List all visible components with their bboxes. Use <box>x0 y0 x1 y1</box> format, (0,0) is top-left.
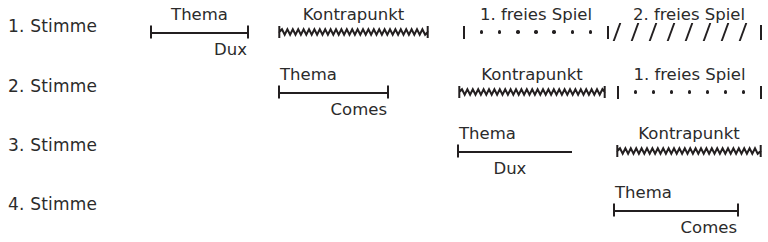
segment-kontrapunkt-voice3: Kontrapunkt <box>616 143 762 159</box>
slash <box>702 23 711 41</box>
segment-bottom-label: Dux <box>493 160 526 177</box>
dot <box>589 30 592 33</box>
fugue-voice-diagram: 1. Stimme Thema Dux Kontrapunkt 1. freie… <box>0 0 768 242</box>
bracket-tick-right <box>737 204 739 217</box>
segment-top-label: 1. freies Spiel <box>480 6 592 23</box>
segment-top-label: Thema <box>615 184 672 201</box>
segment-top-label: Thema <box>171 6 228 23</box>
dotted-end-bar-left <box>463 26 465 39</box>
dot <box>480 30 483 33</box>
segment-top-label: 2. freies Spiel <box>633 6 745 23</box>
slash <box>720 23 729 41</box>
bracket-tick-right <box>387 86 389 99</box>
dot <box>688 90 691 93</box>
bracket-tick-left <box>613 204 615 217</box>
bracket-rule <box>278 92 389 94</box>
segment-erstes-freies-spiel-voice1: 1. freies Spiel <box>463 24 609 40</box>
bracket-rule <box>457 151 572 153</box>
segment-bottom-label: Dux <box>214 41 247 58</box>
segment-kontrapunkt-voice2: Kontrapunkt <box>458 84 606 100</box>
slash <box>684 23 693 41</box>
wavy-line-icon <box>278 25 429 39</box>
slash-line-icon <box>616 23 762 41</box>
segment-kontrapunkt-voice1: Kontrapunkt <box>278 24 429 40</box>
dotted-end-bar-left <box>617 86 619 99</box>
dot <box>652 90 655 93</box>
slash <box>631 23 640 41</box>
wavy-line-icon <box>458 85 606 99</box>
dot <box>552 30 555 33</box>
segment-top-label: Kontrapunkt <box>481 66 582 83</box>
voice-label-1: 1. Stimme <box>8 16 97 36</box>
dot <box>516 30 519 33</box>
wavy-line-icon <box>616 144 762 158</box>
dot <box>670 90 673 93</box>
dot <box>498 30 501 33</box>
slash <box>649 23 658 41</box>
bracket-tick-left <box>457 145 459 158</box>
bracket-rule <box>150 32 249 34</box>
segment-top-label: Thema <box>459 125 516 142</box>
slash <box>667 23 676 41</box>
dotted-end-bar-right <box>607 26 609 39</box>
segment-thema-comes-voice4: Thema Comes <box>613 202 739 218</box>
segment-zweites-freies-spiel-voice1: 2. freies Spiel <box>616 24 762 40</box>
voice-label-3: 3. Stimme <box>8 135 97 155</box>
segment-bottom-label: Comes <box>681 219 737 236</box>
segment-top-label: 1. freies Spiel <box>633 66 745 83</box>
segment-thema-comes-voice2: Thema Comes <box>278 84 389 100</box>
dot <box>634 90 637 93</box>
dotted-line-icon <box>617 85 762 99</box>
dot <box>724 90 727 93</box>
voice-label-2: 2. Stimme <box>8 76 97 96</box>
segment-thema-dux-voice3: Thema Dux <box>457 143 572 159</box>
dot <box>534 30 537 33</box>
bracket-rule <box>613 210 739 212</box>
slash <box>613 23 622 41</box>
segment-top-label: Kontrapunkt <box>638 125 739 142</box>
bracket-tick-left <box>278 86 280 99</box>
segment-top-label: Thema <box>280 66 337 83</box>
dotted-line-icon <box>463 25 609 39</box>
segment-thema-dux-voice1: Thema Dux <box>150 24 249 40</box>
slash-end-bar-right <box>760 25 762 40</box>
segment-bottom-label: Comes <box>331 101 387 118</box>
segment-erstes-freies-spiel-voice2: 1. freies Spiel <box>617 84 762 100</box>
dot <box>742 90 745 93</box>
bracket-tick-right <box>247 26 249 39</box>
voice-label-4: 4. Stimme <box>8 194 97 214</box>
dot <box>571 30 574 33</box>
segment-top-label: Kontrapunkt <box>303 6 404 23</box>
slash <box>738 23 747 41</box>
bracket-tick-left <box>150 26 152 39</box>
dot <box>706 90 709 93</box>
dotted-end-bar-right <box>760 86 762 99</box>
